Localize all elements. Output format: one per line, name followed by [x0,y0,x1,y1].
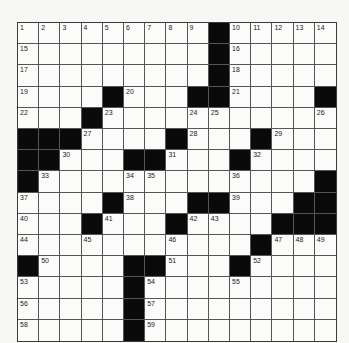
grid-cell[interactable] [294,129,315,150]
grid-cell[interactable] [39,108,60,129]
grid-cell[interactable] [315,150,336,171]
grid-cell[interactable] [188,277,209,298]
grid-cell[interactable] [60,108,81,129]
grid-cell[interactable]: 11 [251,23,272,44]
grid-cell[interactable] [166,108,187,129]
grid-cell[interactable] [60,193,81,214]
grid-cell[interactable] [60,214,81,235]
grid-cell[interactable] [82,150,103,171]
grid-cell[interactable] [251,299,272,320]
grid-cell[interactable] [230,299,251,320]
grid-cell[interactable] [103,150,124,171]
grid-cell[interactable] [294,256,315,277]
grid-cell[interactable]: 5 [103,23,124,44]
grid-cell[interactable]: 31 [166,150,187,171]
grid-cell[interactable] [60,299,81,320]
grid-cell[interactable] [82,44,103,65]
grid-cell[interactable] [315,129,336,150]
grid-cell[interactable]: 32 [251,150,272,171]
grid-cell[interactable] [209,299,230,320]
grid-cell[interactable] [103,235,124,256]
grid-cell[interactable]: 8 [166,23,187,44]
grid-cell[interactable] [103,320,124,341]
grid-cell[interactable]: 9 [188,23,209,44]
grid-cell[interactable] [188,320,209,341]
grid-cell[interactable] [124,129,145,150]
grid-cell[interactable] [82,87,103,108]
grid-cell[interactable] [272,150,293,171]
grid-cell[interactable]: 38 [124,193,145,214]
grid-cell[interactable] [209,277,230,298]
grid-cell[interactable] [272,277,293,298]
grid-cell[interactable] [209,256,230,277]
grid-cell[interactable] [124,108,145,129]
grid-cell[interactable] [315,320,336,341]
grid-cell[interactable] [124,65,145,86]
grid-cell[interactable]: 41 [103,214,124,235]
grid-cell[interactable]: 48 [294,235,315,256]
grid-cell[interactable] [251,44,272,65]
grid-cell[interactable] [209,320,230,341]
grid-cell[interactable] [39,277,60,298]
grid-cell[interactable]: 26 [315,108,336,129]
grid-cell[interactable]: 19 [18,87,39,108]
grid-cell[interactable]: 36 [230,171,251,192]
grid-cell[interactable]: 57 [145,299,166,320]
grid-cell[interactable]: 40 [18,214,39,235]
grid-cell[interactable] [60,320,81,341]
grid-cell[interactable] [124,44,145,65]
grid-cell[interactable] [103,299,124,320]
grid-cell[interactable] [60,235,81,256]
grid-cell[interactable] [103,65,124,86]
grid-cell[interactable] [166,320,187,341]
grid-cell[interactable] [315,277,336,298]
grid-cell[interactable]: 46 [166,235,187,256]
grid-cell[interactable]: 23 [103,108,124,129]
grid-cell[interactable] [166,87,187,108]
grid-cell[interactable]: 2 [39,23,60,44]
grid-cell[interactable]: 51 [166,256,187,277]
grid-cell[interactable]: 44 [18,235,39,256]
grid-cell[interactable] [272,299,293,320]
grid-cell[interactable]: 21 [230,87,251,108]
grid-cell[interactable] [60,44,81,65]
grid-cell[interactable] [251,214,272,235]
grid-cell[interactable] [272,108,293,129]
grid-cell[interactable]: 14 [315,23,336,44]
grid-cell[interactable] [230,129,251,150]
grid-cell[interactable]: 29 [272,129,293,150]
grid-cell[interactable]: 56 [18,299,39,320]
grid-cell[interactable] [39,65,60,86]
grid-cell[interactable]: 39 [230,193,251,214]
grid-cell[interactable] [272,87,293,108]
grid-cell[interactable] [294,277,315,298]
grid-cell[interactable] [294,171,315,192]
grid-cell[interactable] [188,44,209,65]
grid-cell[interactable] [188,299,209,320]
grid-cell[interactable] [103,277,124,298]
grid-cell[interactable] [188,235,209,256]
grid-cell[interactable]: 50 [39,256,60,277]
grid-cell[interactable] [145,65,166,86]
grid-cell[interactable]: 4 [82,23,103,44]
grid-cell[interactable] [209,171,230,192]
grid-cell[interactable] [251,320,272,341]
grid-cell[interactable]: 37 [18,193,39,214]
grid-cell[interactable] [251,193,272,214]
grid-cell[interactable]: 54 [145,277,166,298]
grid-cell[interactable] [82,171,103,192]
grid-cell[interactable] [82,277,103,298]
grid-cell[interactable]: 34 [124,171,145,192]
grid-cell[interactable] [294,150,315,171]
grid-cell[interactable] [294,108,315,129]
grid-cell[interactable]: 6 [124,23,145,44]
grid-cell[interactable] [251,108,272,129]
grid-cell[interactable] [166,193,187,214]
grid-cell[interactable] [103,44,124,65]
grid-cell[interactable]: 12 [272,23,293,44]
grid-cell[interactable] [124,214,145,235]
grid-cell[interactable] [251,65,272,86]
grid-cell[interactable] [230,108,251,129]
grid-cell[interactable] [82,320,103,341]
grid-cell[interactable]: 58 [18,320,39,341]
